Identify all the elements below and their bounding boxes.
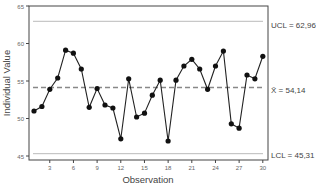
- data-point: [189, 57, 194, 62]
- data-point: [244, 72, 249, 77]
- x-tick-label: 18: [165, 165, 172, 171]
- x-tick-label: 15: [141, 165, 148, 171]
- x-tick-label: 27: [236, 165, 243, 171]
- data-point: [150, 93, 155, 98]
- y-tick-label: 45: [17, 154, 24, 160]
- data-point: [221, 48, 226, 53]
- data-point: [166, 138, 171, 143]
- data-point: [55, 75, 60, 80]
- data-point: [102, 102, 107, 107]
- y-tick-label: 60: [17, 41, 24, 47]
- x-axis-label: Observation: [122, 174, 173, 185]
- data-point: [237, 126, 242, 131]
- control-chart: 4550556065 36912151821242730 Individual …: [0, 0, 316, 190]
- x-tick-label: 21: [188, 165, 195, 171]
- data-series: [31, 48, 265, 144]
- control-limit-lines: [33, 21, 263, 153]
- data-point: [158, 78, 163, 83]
- data-point: [87, 105, 92, 110]
- data-point: [110, 105, 115, 110]
- ucl-label: UCL = 62,96: [271, 21, 316, 30]
- data-point: [229, 121, 234, 126]
- data-point: [118, 136, 123, 141]
- y-tick-label: 50: [17, 116, 24, 122]
- y-axis-label: Individual Value: [1, 50, 12, 116]
- series-line: [34, 50, 263, 141]
- y-axis-ticks: 4550556065: [17, 4, 29, 160]
- x-tick-label: 6: [72, 165, 76, 171]
- data-point: [260, 54, 265, 59]
- data-point: [79, 66, 84, 71]
- data-point: [126, 76, 131, 81]
- x-tick-label: 3: [48, 165, 52, 171]
- y-tick-label: 55: [17, 79, 24, 85]
- data-point: [181, 63, 186, 68]
- x-tick-label: 9: [95, 165, 99, 171]
- data-point: [134, 114, 139, 119]
- data-point: [71, 51, 76, 56]
- data-point: [213, 63, 218, 68]
- x-tick-label: 30: [259, 165, 266, 171]
- data-point: [31, 108, 36, 113]
- data-point: [142, 111, 147, 116]
- data-point: [47, 87, 52, 92]
- data-point: [173, 78, 178, 83]
- data-point: [63, 48, 68, 53]
- x-axis-ticks: 36912151821242730: [48, 160, 267, 171]
- data-point: [252, 76, 257, 81]
- plot-border: [29, 6, 268, 160]
- y-tick-label: 65: [17, 4, 24, 10]
- x-tick-label: 12: [117, 165, 124, 171]
- data-point: [197, 66, 202, 71]
- center-line-label: X̄ = 54,14: [271, 86, 306, 95]
- x-tick-label: 24: [212, 165, 219, 171]
- data-point: [205, 87, 210, 92]
- lcl-label: LCL = 45,31: [271, 151, 315, 160]
- plot-frame: [29, 6, 268, 160]
- data-point: [39, 104, 44, 109]
- data-point: [95, 86, 100, 91]
